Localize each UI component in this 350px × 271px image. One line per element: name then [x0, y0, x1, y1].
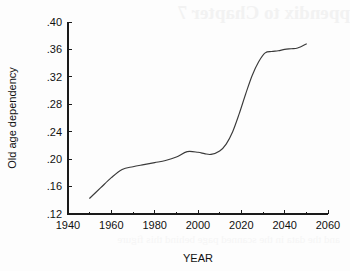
y-tick-label: .40: [47, 16, 62, 28]
y-tick-label: .20: [47, 153, 62, 165]
scanned-figure-page: ppendix to Chapter 7 and the data in the…: [0, 0, 350, 271]
y-tick-label: .28: [47, 98, 62, 110]
y-tick-label: .16: [47, 180, 62, 192]
x-axis-ticks: [68, 210, 328, 214]
y-tick-label: .12: [47, 208, 62, 220]
line-chart: .12.16.20.24.28.32.36.40 194019601980200…: [0, 0, 350, 271]
axis-spines: [68, 22, 328, 214]
x-tick-label: 2040: [272, 219, 296, 231]
y-axis-tick-labels: .12.16.20.24.28.32.36.40: [47, 16, 62, 220]
x-tick-label: 2060: [316, 219, 340, 231]
x-tick-label: 2000: [186, 219, 210, 231]
x-tick-label: 1960: [99, 219, 123, 231]
data-line-old-age-dependency: [90, 44, 307, 198]
y-axis-title: Old age dependency: [6, 67, 18, 169]
x-axis-tick-labels: 1940196019802000202020402060: [56, 219, 340, 231]
y-tick-label: .32: [47, 71, 62, 83]
x-tick-label: 1940: [56, 219, 80, 231]
y-tick-label: .36: [47, 43, 62, 55]
y-axis-ticks: [68, 22, 72, 214]
chart-plot-area: [90, 44, 307, 198]
x-axis-title: YEAR: [183, 252, 213, 264]
x-tick-label: 1980: [142, 219, 166, 231]
x-tick-label: 2020: [229, 219, 253, 231]
y-tick-label: .24: [47, 126, 62, 138]
